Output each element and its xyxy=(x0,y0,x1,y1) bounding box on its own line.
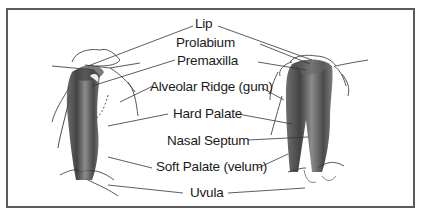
label-lip: Lip xyxy=(195,17,212,31)
label-nasal-septum: Nasal Septum xyxy=(167,134,249,148)
label-premaxilla: Premaxilla xyxy=(177,54,238,68)
label-uvula: Uvula xyxy=(190,186,224,200)
label-hard-palate: Hard Palate xyxy=(173,107,242,121)
label-soft-palate: Soft Palate (velum) xyxy=(156,160,267,174)
label-alveolar-ridge: Alveolar Ridge (gum) xyxy=(150,80,273,94)
right-septum-tissue xyxy=(286,60,333,172)
label-prolabium: Prolabium xyxy=(176,36,235,50)
